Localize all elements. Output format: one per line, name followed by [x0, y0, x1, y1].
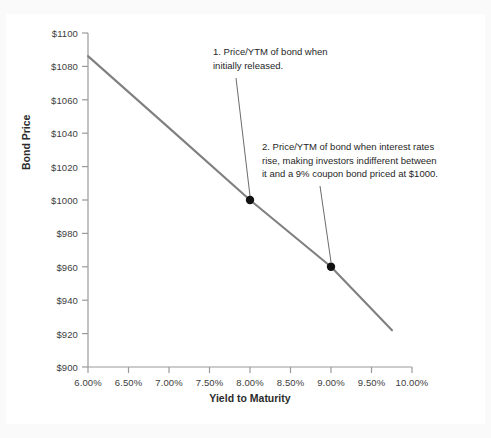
annotation-2-leader	[320, 186, 331, 262]
annotation-1-text: 1. Price/YTM of bond when initially rele…	[213, 45, 383, 72]
y-tick-label-1080: $1080	[38, 61, 78, 72]
x-axis-ticks	[88, 367, 412, 373]
x-tick-label-650: 6.50%	[115, 377, 142, 388]
annotation-1-leader	[236, 78, 250, 196]
y-tick-label-920: $920	[38, 329, 78, 340]
x-tick-label-850: 8.50%	[277, 377, 304, 388]
annotation-2-text: 2. Price/YTM of bond when interest rates…	[262, 140, 462, 181]
bond-price-curve	[88, 56, 392, 330]
x-tick-label-1000pct: 10.00%	[396, 377, 429, 388]
x-tick-label-700: 7.00%	[155, 377, 182, 388]
y-tick-label-940: $940	[38, 295, 78, 306]
x-tick-label-600: 6.00%	[74, 377, 101, 388]
y-axis-ticks	[82, 33, 88, 367]
x-tick-label-750: 7.50%	[196, 377, 223, 388]
y-tick-label-980: $980	[38, 228, 78, 239]
x-tick-label-900pct: 9.00%	[317, 377, 344, 388]
y-axis-title: Bond Price	[20, 115, 32, 170]
data-point-marker-2	[327, 263, 335, 271]
x-tick-label-950: 9.50%	[358, 377, 385, 388]
y-tick-label-960: $960	[38, 262, 78, 273]
y-tick-label-1100: $1100	[38, 28, 78, 39]
y-tick-label-900: $900	[38, 362, 78, 373]
x-tick-label-800: 8.00%	[236, 377, 263, 388]
y-tick-label-1040: $1040	[38, 128, 78, 139]
y-tick-label-1060: $1060	[38, 95, 78, 106]
data-point-marker-1	[246, 196, 254, 204]
y-tick-label-1020: $1020	[38, 162, 78, 173]
chart-figure: $1100 $1080 $1060 $1040 $1020 $1000 $980…	[0, 0, 491, 438]
x-axis-title: Yield to Maturity	[88, 392, 412, 404]
y-tick-label-1000: $1000	[38, 195, 78, 206]
